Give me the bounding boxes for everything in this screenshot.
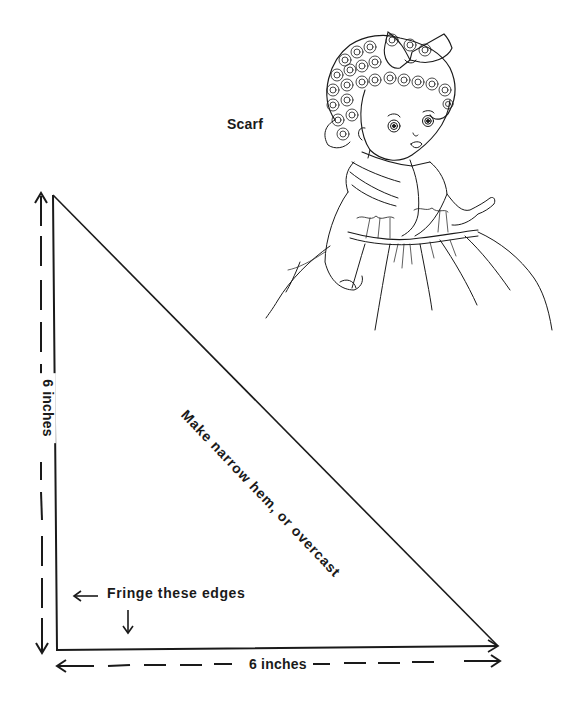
fringe-instruction: Fringe these edges: [107, 585, 245, 601]
pattern-page: Scarf Make narrow hem, or overcast 6 inc…: [0, 0, 582, 714]
pattern-drawing: [0, 0, 582, 714]
doll-illustration: [266, 32, 552, 330]
diagram-title: Scarf: [227, 116, 263, 132]
scarf-triangle: [53, 195, 498, 650]
left-dimension-label: 6 inches: [40, 373, 56, 443]
bottom-dimension-label: 6 inches: [243, 656, 313, 672]
